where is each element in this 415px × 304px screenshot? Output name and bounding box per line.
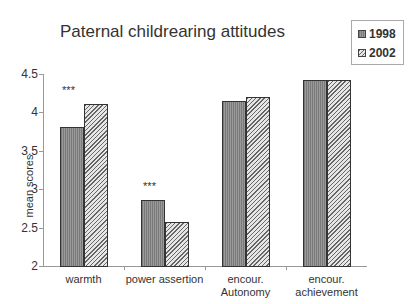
significance-marker: ***	[54, 84, 84, 96]
x-tick-label-line: warmth	[39, 273, 129, 286]
x-tick-mark	[286, 266, 287, 270]
bar-2002-3	[327, 80, 351, 267]
x-tick-label-line: encour.	[282, 273, 372, 286]
x-tick-label-line: encour.	[201, 273, 291, 286]
legend-label-2002: 2002	[369, 46, 396, 60]
y-tick-label: 4.5	[16, 67, 38, 81]
significance-marker: ***	[135, 180, 165, 192]
bar-2002-2	[246, 97, 270, 267]
legend-swatch-2002	[358, 49, 366, 57]
y-tick-label: 3	[16, 182, 38, 196]
x-tick-label-line: achievement	[282, 286, 372, 299]
y-tick-label: 2	[16, 259, 38, 273]
x-tick-label-line: Autonomy	[201, 286, 291, 299]
legend-swatch-1998	[358, 30, 366, 38]
bar-1998-3	[303, 80, 327, 267]
x-tick-mark	[124, 266, 125, 270]
x-tick-label: encour.achievement	[282, 273, 372, 299]
y-tick-mark	[39, 74, 43, 75]
y-tick-label: 3.5	[16, 144, 38, 158]
y-tick-mark	[39, 266, 43, 267]
bar-1998-2	[222, 101, 246, 267]
x-tick-label: power assertion	[120, 273, 210, 286]
x-tick-mark	[205, 266, 206, 270]
bar-2002-1	[165, 222, 189, 267]
bar-1998-1	[141, 200, 165, 267]
y-axis-line	[43, 74, 44, 267]
y-tick-mark	[39, 189, 43, 190]
x-tick-label: warmth	[39, 273, 129, 286]
y-tick-label: 4	[16, 105, 38, 119]
chart-title: Paternal childrearing attitudes	[0, 22, 345, 42]
legend: 1998 2002	[351, 20, 404, 65]
legend-item-1998: 1998	[358, 27, 396, 41]
y-tick-label: 2.5	[16, 221, 38, 235]
y-tick-mark	[39, 151, 43, 152]
bar-1998-0	[60, 127, 84, 267]
y-tick-mark	[39, 228, 43, 229]
legend-item-2002: 2002	[358, 46, 396, 60]
x-tick-label: encour.Autonomy	[201, 273, 291, 299]
bar-2002-0	[84, 104, 108, 267]
legend-label-1998: 1998	[369, 27, 396, 41]
x-tick-label-line: power assertion	[120, 273, 210, 286]
y-tick-mark	[39, 112, 43, 113]
